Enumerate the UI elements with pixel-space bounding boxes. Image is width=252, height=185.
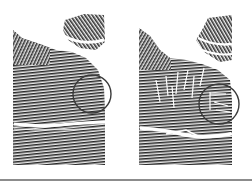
right-fingerprint-image (126, 0, 252, 175)
left-fingerprint-image (0, 0, 126, 175)
bottom-divider (0, 179, 252, 181)
right-fingerprint-panel (126, 0, 252, 175)
ridge-lobe-top (60, 10, 110, 55)
left-fingerprint-panel (0, 0, 126, 175)
ridge-lobe-top (191, 10, 236, 65)
fingerprint-figure (0, 0, 252, 185)
